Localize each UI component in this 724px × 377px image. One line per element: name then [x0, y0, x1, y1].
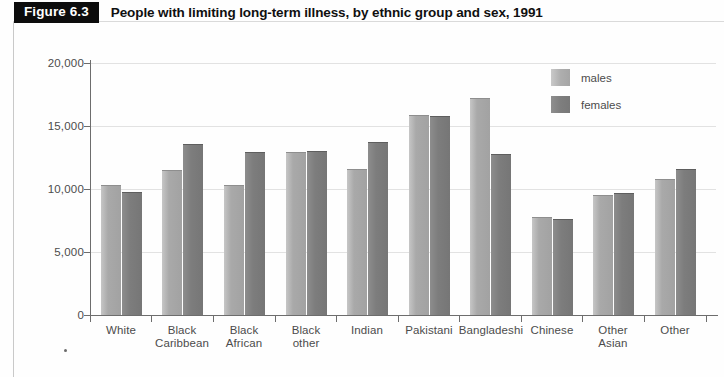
bar-males-other	[655, 179, 675, 315]
y-axis-labels: 05,00010,00015,00020,000	[14, 63, 84, 315]
x-tick-label-line: Caribbean	[151, 337, 214, 350]
bar-group	[101, 63, 142, 315]
bar-group	[224, 63, 265, 315]
bar-group	[470, 63, 511, 315]
chart-legend: males females	[551, 69, 671, 123]
y-tick-mark	[84, 63, 91, 64]
x-tick-mark	[275, 315, 276, 322]
bar-males-bangladeshi	[470, 98, 490, 315]
figure-title: People with limiting long-term illness, …	[99, 2, 543, 23]
y-tick-label: 20,000	[26, 57, 84, 69]
legend-swatch-males-icon	[551, 69, 570, 86]
x-axis-line	[90, 315, 718, 316]
bar-males-other-asian	[593, 195, 613, 315]
bar-males-black-african	[224, 185, 244, 315]
x-tick-mark	[398, 315, 399, 322]
bar-males-white	[101, 185, 121, 315]
bar-males-black-other	[286, 152, 306, 315]
y-tick-label: 0	[26, 309, 84, 321]
y-tick-mark	[84, 189, 91, 190]
bar-females-pakistani	[430, 116, 450, 315]
bar-females-white	[122, 192, 142, 315]
legend-label-females: females	[581, 99, 621, 111]
x-tick-label: White	[90, 324, 153, 337]
x-tick-label-line: Other	[644, 324, 707, 337]
figure-header: Figure 6.3 People with limiting long-ter…	[14, 2, 543, 23]
x-tick-label-line: Black	[213, 324, 276, 337]
x-tick-mark	[706, 315, 707, 322]
legend-item-males: males	[551, 69, 671, 86]
x-tick-label-line: Bangladeshi	[459, 324, 522, 337]
x-tick-mark	[151, 315, 152, 322]
x-tick-label: BlackAfrican	[213, 324, 276, 350]
bar-females-bangladeshi	[491, 154, 511, 315]
bar-females-black-caribbean	[183, 144, 203, 315]
x-tick-label: OtherAsian	[582, 324, 645, 350]
bar-females-chinese	[553, 219, 573, 315]
y-tick-label: 5,000	[26, 246, 84, 258]
x-tick-label-line: White	[90, 324, 153, 337]
bar-females-indian	[368, 142, 388, 315]
x-tick-label: Pakistani	[398, 324, 461, 337]
x-tick-mark	[213, 315, 214, 322]
bar-group	[409, 63, 450, 315]
x-tick-label-line: Indian	[336, 324, 399, 337]
y-tick-mark	[84, 126, 91, 127]
bar-females-black-other	[307, 151, 327, 315]
x-tick-label-line: African	[213, 337, 276, 350]
x-tick-mark	[336, 315, 337, 322]
stray-print-mark	[64, 349, 67, 352]
bar-group	[162, 63, 203, 315]
bar-females-black-african	[245, 152, 265, 315]
x-tick-label-line: Other	[582, 324, 645, 337]
bar-males-indian	[347, 169, 367, 315]
y-tick-label: 10,000	[26, 183, 84, 195]
x-tick-mark	[582, 315, 583, 322]
bar-males-pakistani	[409, 115, 429, 315]
bar-males-chinese	[532, 217, 552, 315]
x-tick-label: Chinese	[521, 324, 584, 337]
x-tick-mark	[459, 315, 460, 322]
x-tick-label: Blackother	[275, 324, 338, 350]
x-tick-mark	[644, 315, 645, 322]
x-tick-label-line: Pakistani	[398, 324, 461, 337]
x-tick-mark	[521, 315, 522, 322]
x-tick-label: Bangladeshi	[459, 324, 522, 337]
bar-group	[347, 63, 388, 315]
x-tick-label: BlackCaribbean	[151, 324, 214, 350]
legend-label-males: males	[581, 72, 612, 84]
x-tick-label-line: Black	[275, 324, 338, 337]
bar-males-black-caribbean	[162, 170, 182, 315]
legend-item-females: females	[551, 96, 671, 113]
x-tick-mark	[90, 315, 91, 322]
x-tick-label: Other	[644, 324, 707, 337]
bar-group	[286, 63, 327, 315]
x-tick-label: Indian	[336, 324, 399, 337]
y-tick-mark	[84, 252, 91, 253]
x-tick-label-line: Asian	[582, 337, 645, 350]
figure-number-badge: Figure 6.3	[14, 2, 99, 23]
x-tick-label-line: Chinese	[521, 324, 584, 337]
figure-page: Figure 6.3 People with limiting long-ter…	[0, 0, 724, 377]
bar-females-other-asian	[614, 193, 634, 315]
legend-swatch-females-icon	[551, 96, 570, 113]
x-tick-label-line: other	[275, 337, 338, 350]
y-tick-label: 15,000	[26, 120, 84, 132]
x-tick-label-line: Black	[151, 324, 214, 337]
bar-females-other	[676, 169, 696, 315]
